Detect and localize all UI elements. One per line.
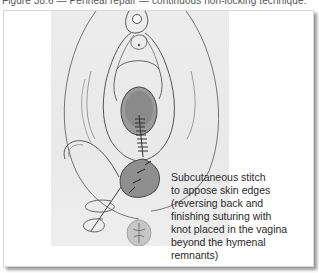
annotation-line: knot placed in the vagina bbox=[171, 223, 311, 236]
annotation-line: Subcutaneous stitch bbox=[171, 171, 311, 184]
annotation-line: finishing suturing with bbox=[171, 210, 311, 223]
annotation-line: (reversing back and bbox=[171, 197, 311, 210]
annotation-line: remnants) bbox=[171, 249, 311, 262]
figure-caption-fragment: Figure 38.6 — Perineal repair — continuo… bbox=[2, 0, 319, 6]
annotation-label: Subcutaneous stitch to appose skin edges… bbox=[171, 171, 311, 262]
annotation-line: beyond the hymenal bbox=[171, 236, 311, 249]
figure-card: Subcutaneous stitch to appose skin edges… bbox=[3, 10, 314, 267]
annotation-line: to appose skin edges bbox=[171, 184, 311, 197]
